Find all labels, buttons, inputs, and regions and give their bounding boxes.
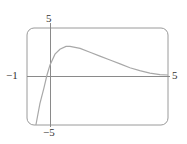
y-max-label: 5 xyxy=(46,13,52,24)
function-curve xyxy=(36,46,168,125)
y-min-label: −5 xyxy=(43,127,55,138)
graph-plot xyxy=(0,0,187,144)
x-min-label: −1 xyxy=(6,70,18,81)
x-max-label: 5 xyxy=(172,70,178,81)
